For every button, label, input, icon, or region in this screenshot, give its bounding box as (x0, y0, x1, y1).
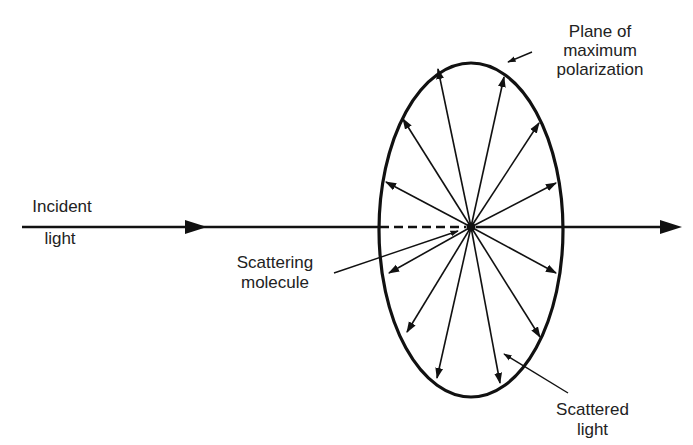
molecule-line-1: Scattering (220, 253, 330, 273)
scattering-molecule-label: Scattering molecule (220, 253, 330, 293)
scatter-arrow-icon (386, 182, 471, 227)
scatter-arrow-icon (471, 123, 539, 227)
scattering-molecule-dot (467, 223, 476, 232)
plane-label: Plane of maximum polarization (540, 22, 660, 79)
scattered-light-label: Scattered light (540, 400, 645, 440)
incident-line-1: Incident (22, 197, 102, 217)
scatter-arrow-icon (403, 119, 471, 227)
scatter-arrow-icon (437, 227, 471, 378)
plane-line-1: Plane of (540, 22, 660, 41)
plane-line-2: maximum (540, 41, 660, 60)
molecule-line-2: molecule (220, 273, 330, 293)
transmitted-arrow-icon (660, 220, 682, 234)
scatter-arrow-icon (471, 77, 504, 227)
scatter-arrow-icon (471, 183, 556, 227)
incident-light-label: Incident light (22, 205, 102, 249)
plane-line-3: polarization (540, 60, 660, 79)
scatter-arrow-icon (407, 227, 471, 332)
pointer-lines (334, 52, 568, 393)
incident-arrow-icon (185, 220, 207, 234)
scatter-arrow-icon (438, 69, 471, 227)
incident-light-axis (22, 220, 682, 234)
scattered-line-2: light (540, 420, 645, 440)
scatter-arrow-icon (471, 227, 556, 273)
scattered-line-1: Scattered (540, 400, 645, 420)
incident-line-2: light (18, 229, 102, 249)
